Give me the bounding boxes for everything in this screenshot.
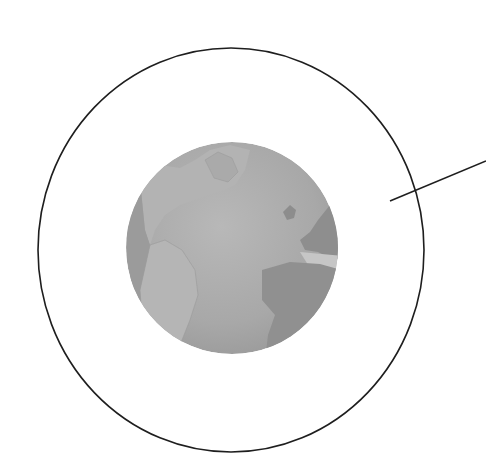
- diagram-canvas: [0, 0, 486, 469]
- leader-line: [390, 161, 486, 201]
- globe: [126, 142, 342, 360]
- landmass-africa: [262, 262, 342, 360]
